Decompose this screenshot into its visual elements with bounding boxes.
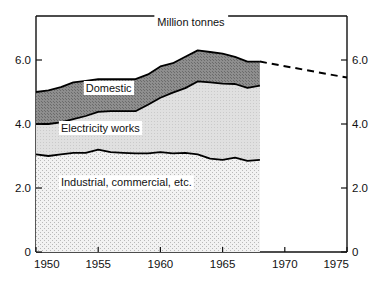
coal-consumption-area-chart: 195019551960196519701975 02.04.06.0 02.0… xyxy=(0,0,382,287)
y-tick-label-right: 6.0 xyxy=(352,54,368,66)
x-tick-label: 1955 xyxy=(85,258,111,270)
y-tick-label-left: 6.0 xyxy=(15,54,31,66)
electricity-works-label: Electricity works xyxy=(61,122,140,134)
domestic-label: Domestic xyxy=(86,82,132,94)
area-industrial-commercial xyxy=(36,150,260,252)
y-tick-label-left: 2.0 xyxy=(15,182,31,194)
y-tick-label-left: 4.0 xyxy=(15,118,31,130)
y-tick-label-left: 0 xyxy=(25,246,31,258)
y-tick-label-right: 2.0 xyxy=(352,182,368,194)
x-tick-label: 1950 xyxy=(34,258,60,270)
x-tick-label: 1975 xyxy=(323,258,349,270)
chart-title: Million tonnes xyxy=(157,16,225,28)
y-tick-label-right: 4.0 xyxy=(352,118,368,130)
y-tick-label-right: 0 xyxy=(352,246,358,258)
industrial-commercial-label: Industrial, commercial, etc. xyxy=(61,176,192,188)
x-tick-label: 1965 xyxy=(210,258,236,270)
chart-title-group: Million tonnes xyxy=(154,15,228,29)
x-tick-label: 1970 xyxy=(272,258,298,270)
chart-figure: 195019551960196519701975 02.04.06.0 02.0… xyxy=(0,0,382,287)
x-tick-label: 1960 xyxy=(148,258,174,270)
